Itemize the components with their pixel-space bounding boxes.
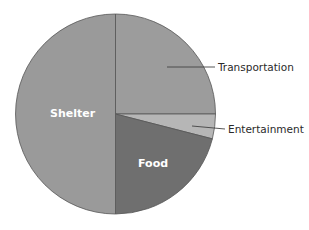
pie-chart: Transportation Entertainment Shelter Foo… <box>0 0 309 230</box>
slice-transportation <box>116 14 216 114</box>
label-shelter: Shelter <box>50 107 96 120</box>
label-entertainment: Entertainment <box>228 123 304 135</box>
label-transportation: Transportation <box>217 61 294 73</box>
label-food: Food <box>138 157 168 170</box>
pie-slices <box>16 14 216 214</box>
